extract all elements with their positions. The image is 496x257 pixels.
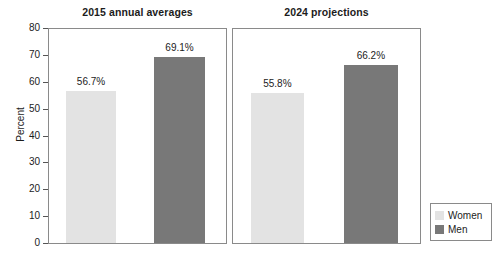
bar-men-1 bbox=[344, 65, 397, 243]
plot-area-2015: 56.7%69.1% bbox=[49, 29, 226, 243]
y-tick-label-0: 0 bbox=[10, 238, 40, 248]
legend-item-men: Men bbox=[435, 222, 488, 236]
bar-value-label-men-0: 69.1% bbox=[154, 42, 204, 53]
y-tick-label-30: 30 bbox=[10, 157, 40, 167]
bar-women-1 bbox=[251, 93, 304, 243]
y-tick-label-10: 10 bbox=[10, 211, 40, 221]
panel-2024-projections: 55.8%66.2% bbox=[232, 28, 421, 244]
legend-label-men: Men bbox=[448, 224, 467, 235]
y-tick-label-40: 40 bbox=[10, 131, 40, 141]
legend-swatch-women-icon bbox=[435, 211, 444, 220]
panel-title-2015: 2015 annual averages bbox=[48, 6, 227, 18]
legend: Women Men bbox=[430, 203, 492, 241]
legend-label-women: Women bbox=[448, 210, 482, 221]
y-tick-label-70: 70 bbox=[10, 50, 40, 60]
y-tick-label-50: 50 bbox=[10, 104, 40, 114]
y-tick-label-20: 20 bbox=[10, 184, 40, 194]
bar-women-0 bbox=[66, 91, 116, 243]
legend-swatch-men-icon bbox=[435, 225, 444, 234]
grouped-bar-chart: 2015 annual averages 2024 projections Pe… bbox=[0, 0, 496, 257]
bar-value-label-women-1: 55.8% bbox=[251, 78, 304, 89]
y-tick-label-80: 80 bbox=[10, 23, 40, 33]
legend-item-women: Women bbox=[435, 208, 488, 222]
panel-title-2024: 2024 projections bbox=[232, 6, 421, 18]
plot-area-2024: 55.8%66.2% bbox=[233, 29, 420, 243]
y-axis-label: Percent bbox=[15, 85, 26, 165]
panel-2015-annual-averages: 56.7%69.1% bbox=[48, 28, 227, 244]
bar-value-label-women-0: 56.7% bbox=[66, 76, 116, 87]
y-tick-label-60: 60 bbox=[10, 77, 40, 87]
bar-men-0 bbox=[154, 57, 204, 243]
bar-value-label-men-1: 66.2% bbox=[344, 50, 397, 61]
